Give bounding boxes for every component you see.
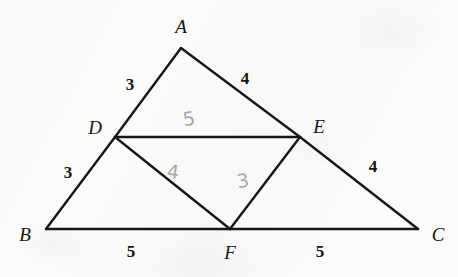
- vertex-label-e: E: [313, 117, 325, 136]
- edge-length-label-ad: 3: [126, 76, 135, 93]
- vertex-label-a: A: [175, 17, 187, 36]
- segment-DB: [46, 137, 115, 229]
- vertex-label-d: D: [88, 118, 102, 137]
- edge-length-label-db: 3: [64, 164, 73, 181]
- edge-length-label-bf: 5: [127, 243, 136, 260]
- segment-DF: [115, 137, 230, 229]
- figure-lines-svg: [0, 0, 458, 277]
- edge-length-label-ec: 4: [369, 158, 378, 175]
- handwritten-length-label-df: 4: [166, 162, 180, 182]
- edge-length-label-fc: 5: [316, 243, 325, 260]
- edge-length-label-ae: 4: [241, 70, 250, 87]
- segment-AE: [181, 48, 300, 137]
- vertex-label-b: B: [19, 225, 31, 244]
- segments-group: [46, 48, 418, 229]
- vertex-label-c: C: [432, 225, 445, 244]
- vertex-label-f: F: [224, 243, 236, 262]
- segment-EC: [300, 137, 418, 229]
- geometry-figure: ABCDEF 343455 543: [0, 0, 458, 277]
